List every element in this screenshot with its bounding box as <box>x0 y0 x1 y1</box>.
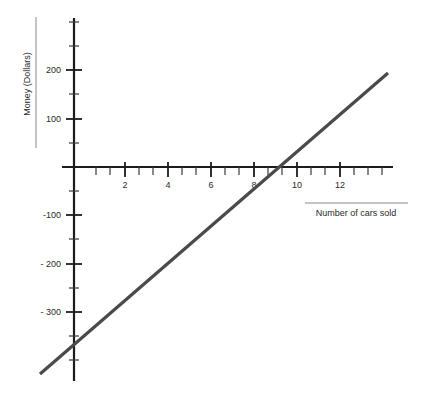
x-axis-major-ticks <box>125 162 340 177</box>
x-tick-label-10: 10 <box>292 180 302 190</box>
y-tick-label-neg200: - 200 <box>40 259 61 269</box>
x-tick-label-6: 6 <box>208 180 213 190</box>
x-tick-label-12: 12 <box>335 180 345 190</box>
x-tick-label-2: 2 <box>122 180 127 190</box>
x-axis-title: Number of cars sold <box>316 208 397 218</box>
line-chart-svg: 200 100 -100 - 200 - 300 <box>0 0 423 397</box>
y-tick-label-200: 200 <box>46 65 61 75</box>
x-tick-label-4: 4 <box>165 180 170 190</box>
y-tick-label-100: 100 <box>46 114 61 124</box>
y-axis-title: Money (Dollars) <box>22 52 32 116</box>
chart-container: 200 100 -100 - 200 - 300 <box>0 0 423 397</box>
y-tick-label-neg100: -100 <box>43 210 61 220</box>
y-tick-label-neg300: - 300 <box>40 307 61 317</box>
data-line-profit <box>40 73 388 374</box>
